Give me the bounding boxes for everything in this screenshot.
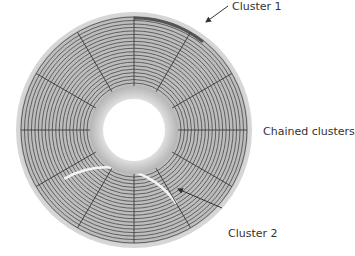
cluster-1-arrow	[206, 6, 228, 22]
spindle-hole	[103, 99, 165, 161]
cluster-2-label: Cluster 2	[228, 227, 278, 240]
cluster-1-label: Cluster 1	[232, 0, 282, 13]
chained-clusters-label: Chained clusters	[263, 125, 355, 138]
